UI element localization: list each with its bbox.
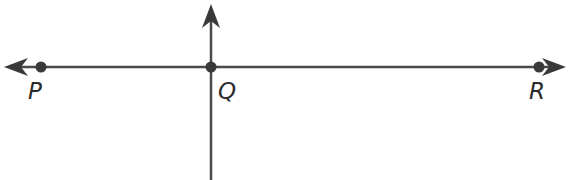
geometry-diagram: P Q R [0, 0, 569, 180]
point-q [206, 62, 217, 73]
point-r [534, 62, 545, 73]
label-r: R [529, 78, 545, 104]
label-q: Q [218, 78, 236, 104]
label-p: P [28, 78, 42, 104]
point-p [36, 62, 47, 73]
